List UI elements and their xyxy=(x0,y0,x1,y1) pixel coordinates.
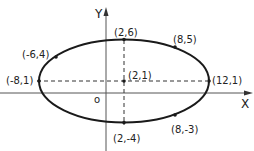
point-label-neg6-4: (-6,4) xyxy=(22,49,49,60)
point-marker-2-6 xyxy=(122,38,126,42)
point-label-2-6: (2,6) xyxy=(114,27,138,38)
point-marker-8-neg3 xyxy=(173,113,177,117)
ellipse-diagram: X Y o (2,6) (8,5) (-6,4) (-8,1) (2,1) (1… xyxy=(0,0,254,151)
x-axis-label: X xyxy=(241,97,249,111)
point-marker-12-1 xyxy=(207,79,211,83)
point-label-12-1: (12,1) xyxy=(212,75,242,86)
point-marker-2-1 xyxy=(122,79,126,83)
point-label-2-1: (2,1) xyxy=(128,70,152,81)
y-axis-label: Y xyxy=(94,7,103,21)
point-marker-8-5 xyxy=(173,45,177,49)
x-axis-arrow-icon xyxy=(244,91,253,96)
x-axis: X xyxy=(0,91,253,112)
point-label-neg8-1: (-8,1) xyxy=(6,75,33,86)
y-axis-arrow-icon xyxy=(104,7,109,16)
origin-label: o xyxy=(94,94,100,105)
point-label-8-5: (8,5) xyxy=(173,34,197,45)
point-label-2-neg4: (2,-4) xyxy=(113,133,140,144)
point-label-8-neg3: (8,-3) xyxy=(171,124,198,135)
point-marker-2-neg4 xyxy=(122,121,126,125)
point-marker-neg6-4 xyxy=(54,55,58,59)
y-axis: Y xyxy=(94,7,109,151)
point-marker-neg8-1 xyxy=(37,79,41,83)
